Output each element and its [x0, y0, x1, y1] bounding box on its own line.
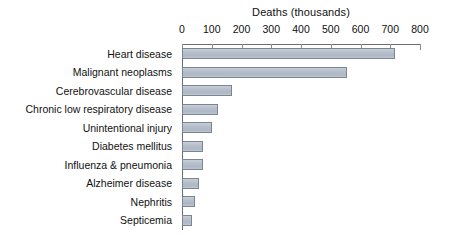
bar — [182, 178, 199, 189]
category-label-row: Nephritis — [0, 193, 176, 211]
bar — [182, 196, 195, 207]
axis-tick-label: 200 — [233, 23, 251, 35]
bar-chart-figure: Deaths (thousands) 010020030040050060070… — [0, 0, 451, 245]
bar — [182, 159, 203, 170]
bar — [182, 215, 192, 226]
bar-row — [182, 64, 450, 82]
axis-tick-label: 300 — [262, 23, 280, 35]
bar — [182, 67, 347, 78]
axis-tick-label: 600 — [352, 23, 370, 35]
axis-tick-label: 700 — [381, 23, 399, 35]
category-label-row: Diabetes mellitus — [0, 138, 176, 156]
axis-tick-label: 400 — [292, 23, 310, 35]
bar-row — [182, 175, 450, 193]
bar-row — [182, 156, 450, 174]
category-label: Heart disease — [107, 48, 172, 60]
bar-row — [182, 82, 450, 100]
bar-row — [182, 193, 450, 211]
bar — [182, 85, 232, 96]
category-label: Malignant neoplasms — [73, 66, 172, 78]
axis-tick-label: 0 — [179, 23, 185, 35]
category-label: Cerebrovascular disease — [56, 85, 172, 97]
category-label-row: Heart disease — [0, 45, 176, 63]
category-label: Septicemia — [120, 214, 172, 226]
category-label-row: Malignant neoplasms — [0, 64, 176, 82]
bar-row — [182, 45, 450, 63]
category-label: Alzheimer disease — [86, 177, 172, 189]
bar-row — [182, 101, 450, 119]
bar-row — [182, 138, 450, 156]
category-label-row: Unintentional injury — [0, 119, 176, 137]
axis-tick-label: 100 — [203, 23, 221, 35]
chart-title: Deaths (thousands) — [182, 6, 420, 19]
plot-area — [182, 45, 450, 231]
category-label-row: Influenza & pneumonia — [0, 156, 176, 174]
axis-tick-label: 800 — [411, 23, 429, 35]
category-label: Influenza & pneumonia — [65, 159, 172, 171]
bar — [182, 122, 212, 133]
bar — [182, 141, 203, 152]
category-label-row: Septicemia — [0, 212, 176, 230]
category-label: Nephritis — [131, 196, 172, 208]
category-label-column: Heart diseaseMalignant neoplasmsCerebrov… — [0, 45, 178, 231]
category-label-row: Cerebrovascular disease — [0, 82, 176, 100]
category-label-row: Chronic low respiratory disease — [0, 101, 176, 119]
category-label-row: Alzheimer disease — [0, 175, 176, 193]
category-label: Chronic low respiratory disease — [26, 103, 172, 115]
bar-row — [182, 119, 450, 137]
axis-tick-label: 500 — [322, 23, 340, 35]
bar-row — [182, 212, 450, 230]
bar — [182, 48, 395, 59]
category-label: Diabetes mellitus — [92, 140, 172, 152]
category-label: Unintentional injury — [83, 122, 172, 134]
bar — [182, 104, 218, 115]
